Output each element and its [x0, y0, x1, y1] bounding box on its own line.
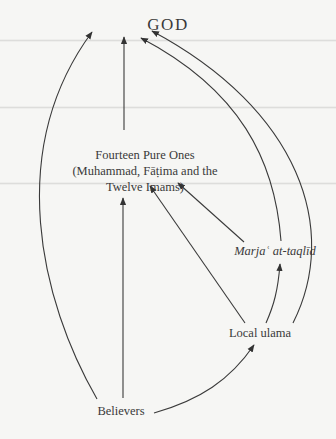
edge-believers-to-god	[39, 32, 97, 399]
node-fourteen-pure-ones: Fourteen Pure Ones (Muhammad, Fāṭima and…	[60, 147, 230, 195]
edges-layer	[0, 0, 336, 439]
node-fourteen-line-2: (Muhammad, Fāṭima and the	[60, 163, 230, 179]
node-local-ulama: Local ulama	[218, 326, 302, 341]
edge-local-to-marja	[266, 264, 280, 323]
node-fourteen-line-1: Fourteen Pure Ones	[60, 147, 230, 163]
node-god: GOD	[138, 15, 198, 35]
node-believers: Believers	[84, 404, 158, 419]
edge-believers-to-local	[154, 345, 254, 413]
node-fourteen-line-3: Twelve Imams)	[60, 179, 230, 195]
node-marja-at-taqlid: Marjaʿ at-taqlīd	[220, 244, 330, 259]
